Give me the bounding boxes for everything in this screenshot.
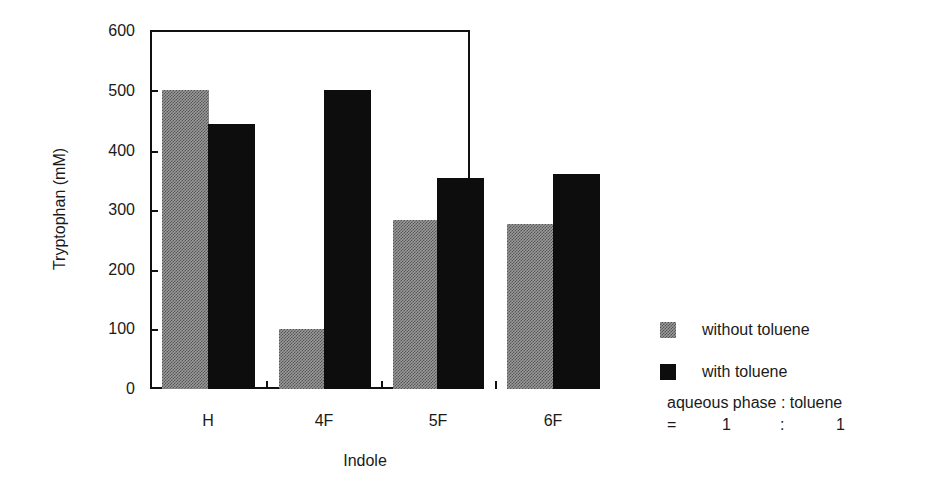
y-tick-label: 200	[95, 261, 135, 279]
y-tick-label: 100	[95, 320, 135, 338]
x-tick-label: 5F	[408, 412, 468, 430]
y-tick	[150, 210, 158, 212]
y-tick-label: 300	[95, 201, 135, 219]
x-tick	[381, 381, 383, 389]
bar-with-toluene-4F	[324, 90, 371, 389]
x-tick	[266, 381, 268, 389]
y-tick-label: 600	[95, 22, 135, 40]
y-tick	[150, 90, 158, 92]
y-tick-label: 400	[95, 142, 135, 160]
bar-without-toluene-4F	[279, 329, 326, 389]
y-tick	[150, 270, 158, 272]
y-tick-label: 500	[95, 82, 135, 100]
bar-with-toluene-H	[208, 124, 255, 389]
x-tick-label: H	[178, 412, 238, 430]
bar-without-toluene-H	[162, 90, 209, 389]
legend-note-ratio-label: aqueous phase : toluene	[667, 394, 842, 412]
legend-label-with-toluene: with toluene	[702, 363, 787, 381]
x-axis-title: Indole	[310, 452, 420, 470]
x-tick	[495, 381, 497, 389]
bar-with-toluene-6F	[553, 174, 600, 389]
y-tick	[150, 329, 158, 331]
bar-with-toluene-5F	[437, 178, 484, 389]
legend-swatch-with-toluene	[660, 364, 676, 380]
legend-note-value-b: 1	[836, 416, 845, 434]
legend-note-value-a: 1	[722, 416, 731, 434]
y-tick-label: 0	[95, 380, 135, 398]
bar-without-toluene-6F	[507, 224, 554, 389]
y-tick	[150, 151, 158, 153]
legend-note-colon: :	[780, 416, 784, 434]
bar-without-toluene-5F	[393, 220, 440, 389]
legend-note-equals: =	[667, 416, 676, 434]
x-tick-label: 4F	[294, 412, 354, 430]
legend-swatch-without-toluene	[660, 322, 676, 338]
legend-label-without-toluene: without toluene	[702, 321, 810, 339]
y-axis-title: Tryptophan (mM)	[51, 119, 69, 299]
x-tick-label: 6F	[523, 412, 583, 430]
